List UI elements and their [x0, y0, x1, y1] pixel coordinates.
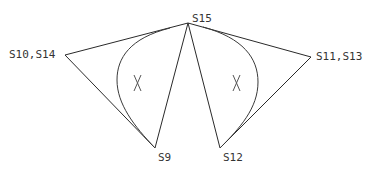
left-x-mark: [134, 75, 141, 91]
edge-s12-s15: [188, 23, 220, 148]
right-triangle: [188, 23, 311, 148]
label-s15: S15: [192, 12, 212, 25]
edge-s10s14-s9: [65, 55, 155, 148]
right-x-mark: [233, 75, 240, 91]
right-curve: [203, 27, 258, 148]
edge-s9-s15: [155, 23, 188, 148]
left-triangle: [65, 23, 188, 148]
left-curve: [117, 28, 170, 148]
label-s12: S12: [223, 151, 243, 164]
geometry-diagram: S15 S10,S14 S11,S13 S9 S12: [0, 0, 370, 173]
label-s10-s14: S10,S14: [9, 48, 56, 61]
label-s11-s13: S11,S13: [316, 50, 362, 63]
label-s9: S9: [158, 151, 171, 164]
